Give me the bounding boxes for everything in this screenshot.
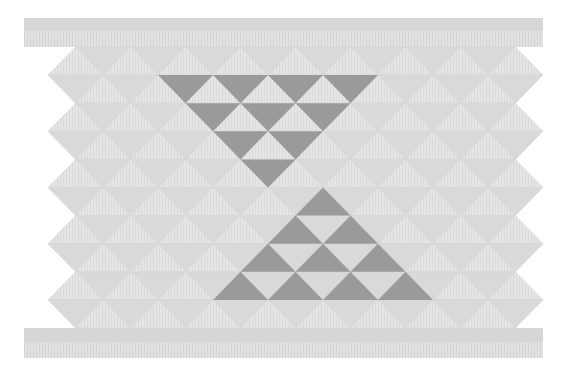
bottom-border-band [24,328,543,358]
band-solid-strip [24,18,543,31]
band-striped-strip [24,31,543,47]
top-border-band [24,18,543,47]
band-striped-strip [24,342,543,358]
triangle-pattern-artwork [0,0,565,375]
band-solid-strip [24,328,543,342]
